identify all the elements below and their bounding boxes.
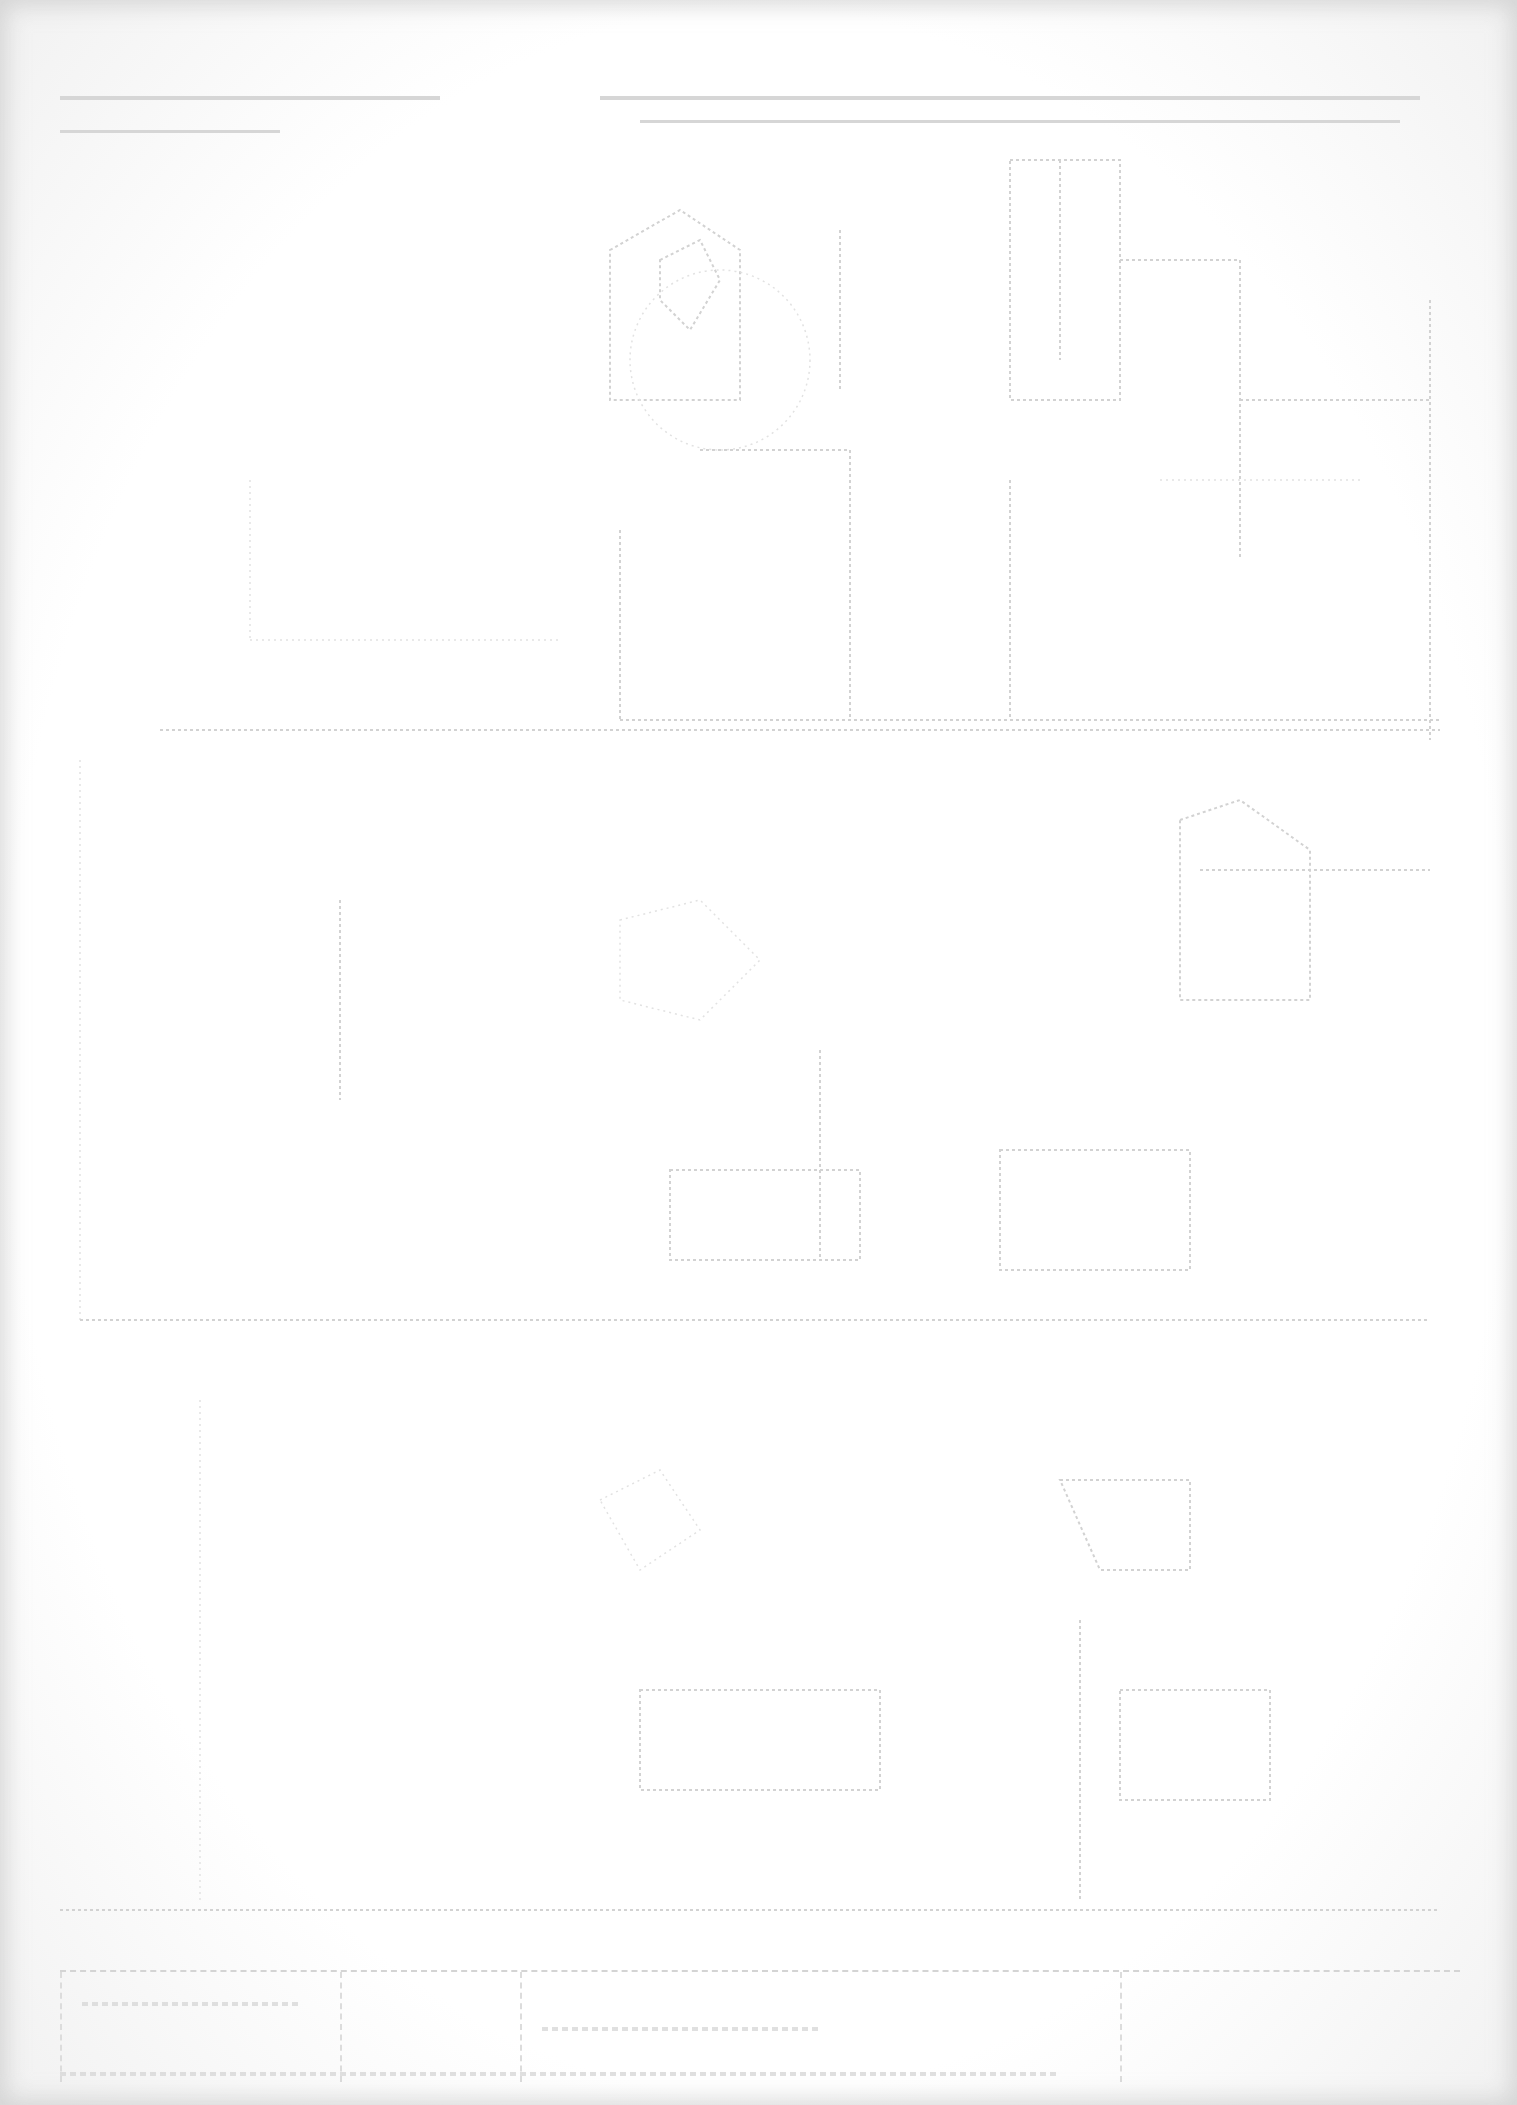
title-block-cell xyxy=(60,1972,342,2082)
central-plan xyxy=(80,760,1430,1320)
title-block-footer-text xyxy=(60,2072,1060,2076)
floor-plan-drawing xyxy=(0,0,1517,2105)
header-text xyxy=(60,96,1420,133)
title-block-cell xyxy=(1120,1972,1462,2082)
lower-plan xyxy=(60,1400,1440,1910)
title-block xyxy=(60,1970,1460,2082)
title-block-cell xyxy=(520,1972,1122,2082)
mid-plan xyxy=(160,450,1440,730)
title-block-cell xyxy=(340,1972,522,2082)
